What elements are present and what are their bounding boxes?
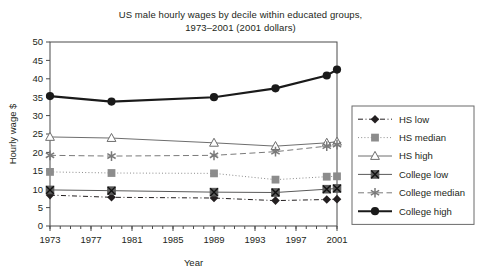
marker-filled-square <box>371 134 379 142</box>
legend-label: HS median <box>399 132 446 143</box>
series-line <box>50 137 337 146</box>
x-axis-title: Year <box>184 257 203 268</box>
legend-label: HS low <box>399 114 429 125</box>
marker-filled-circle <box>210 93 218 101</box>
plot-frame <box>50 42 337 226</box>
series-line <box>50 172 337 180</box>
marker-filled-square <box>210 169 218 177</box>
marker-filled-diamond <box>333 195 342 204</box>
marker-filled-circle <box>371 207 379 215</box>
x-tick-label: 1989 <box>203 234 224 245</box>
y-tick-label: 35 <box>32 92 43 103</box>
marker-filled-circle <box>107 98 115 106</box>
series-line <box>50 70 337 102</box>
y-tick-label: 45 <box>32 55 43 66</box>
marker-filled-square <box>108 169 116 177</box>
x-tick-label: 2001 <box>326 234 347 245</box>
x-tick-label: 1993 <box>244 234 265 245</box>
chart-title-line2: 1973–2001 (2001 dollars) <box>0 21 481 34</box>
y-axis-title: Hourly wage $ <box>7 103 18 164</box>
marker-filled-diamond <box>271 196 280 205</box>
series-hs-median <box>46 168 341 184</box>
x-tick-label: 1977 <box>80 234 101 245</box>
series-line <box>50 145 337 156</box>
series-line <box>50 188 337 192</box>
x-tick-label: 1985 <box>162 234 183 245</box>
legend-label: College median <box>399 187 465 198</box>
marker-filled-circle <box>271 84 279 92</box>
x-tick-label: 1997 <box>285 234 306 245</box>
y-tick-label: 10 <box>32 184 43 195</box>
y-tick-label: 0 <box>38 220 43 231</box>
plot-area: 0510152025303540455019731977198119851989… <box>0 0 481 276</box>
legend-label: College low <box>399 169 448 180</box>
y-tick-label: 50 <box>32 36 43 47</box>
marker-filled-circle <box>323 71 331 79</box>
legend: HS lowHS medianHS highCollege lowCollege… <box>352 106 474 224</box>
chart-title-line1: US male hourly wages by decile within ed… <box>119 9 363 20</box>
y-tick-label: 5 <box>38 202 43 213</box>
y-tick-label: 20 <box>32 147 43 158</box>
series-hs-low <box>46 191 342 205</box>
chart-figure: US male hourly wages by decile within ed… <box>0 0 481 276</box>
marker-filled-circle <box>333 66 341 74</box>
marker-filled-square <box>272 176 280 184</box>
series-line <box>50 195 337 201</box>
series-college-median <box>46 140 341 161</box>
series-hs-high <box>46 132 342 149</box>
marker-filled-circle <box>46 92 54 100</box>
series-college-low <box>46 185 341 197</box>
marker-open-triangle <box>107 133 116 141</box>
y-tick-label: 40 <box>32 73 43 84</box>
x-tick-label: 1973 <box>39 234 60 245</box>
legend-label: HS high <box>399 150 433 161</box>
marker-filled-diamond <box>322 195 331 204</box>
y-tick-label: 15 <box>32 165 43 176</box>
y-tick-label: 25 <box>32 128 43 139</box>
marker-filled-square <box>333 172 341 180</box>
series-college-high <box>46 66 341 106</box>
chart-title: US male hourly wages by decile within ed… <box>0 8 481 34</box>
y-tick-label: 30 <box>32 110 43 121</box>
x-tick-label: 1981 <box>121 234 142 245</box>
marker-filled-square <box>46 168 54 176</box>
legend-item[interactable]: College low <box>358 169 448 180</box>
legend-label: College high <box>399 206 452 217</box>
marker-filled-square <box>323 173 331 181</box>
